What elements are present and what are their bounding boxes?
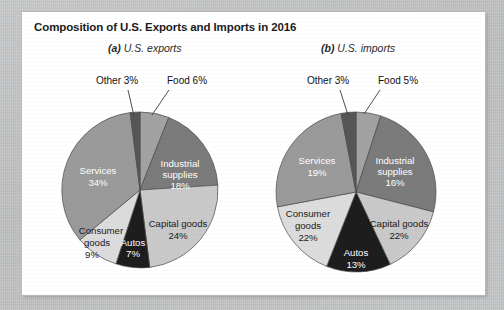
figure-panel: Composition of U.S. Exports and Imports … [22,12,485,295]
chart-a-subtitle: (a) U.S. exports [108,42,182,54]
pie-chart-a-svg: Other 3% Food 6% Industrial supplies 18%… [28,54,253,292]
label-services-value: 19% [307,167,327,178]
label-other: Other 3% [307,75,349,86]
label-capital-goods-line1: Capital goods [370,218,429,229]
leader-line-food [152,90,169,115]
label-food: Food 5% [378,75,418,86]
label-industrial-supplies-line2: supplies [377,166,412,177]
chart-a-subtitle-text: U.S. exports [121,42,182,54]
label-industrial-supplies-line2: supplies [162,169,197,180]
label-capital-goods-value: 24% [168,230,188,241]
label-consumer-goods-value: 9% [85,249,99,260]
pie-chart-us-imports: Other 3% Food 5% Industrial supplies 16%… [244,54,469,292]
label-other: Other 3% [96,75,138,86]
leader-line-other [128,90,134,116]
label-capital-goods-line1: Capital goods [149,218,208,229]
label-food: Food 6% [167,75,207,86]
label-consumer-goods-line2: goods [295,220,321,231]
label-industrial-supplies-line1: Industrial [376,155,415,166]
label-capital-goods-value: 22% [389,230,409,241]
leader-line-food [364,90,380,114]
label-autos-line1: Autos [121,237,146,248]
chart-b-subtitle: (b) U.S. imports [321,42,395,54]
label-autos-line1: Autos [344,247,369,258]
chart-b-tag: (b) [321,42,334,54]
label-consumer-goods-line1: Consumer [286,208,331,219]
label-industrial-supplies-line1: Industrial [161,158,200,169]
figure-title: Composition of U.S. Exports and Imports … [34,21,296,33]
label-services-line1: Services [80,165,117,176]
label-consumer-goods-line1: Consumer [79,225,124,236]
pie-chart-us-exports: Other 3% Food 6% Industrial supplies 18%… [28,54,253,292]
label-industrial-supplies-value: 16% [385,177,405,188]
label-services-value: 34% [88,177,108,188]
pie-chart-b-svg: Other 3% Food 5% Industrial supplies 16%… [244,54,469,292]
label-autos-value: 13% [346,259,366,270]
label-autos-value: 7% [126,248,140,259]
label-services-line1: Services [299,155,336,166]
chart-a-tag: (a) [108,42,121,54]
label-industrial-supplies-value: 18% [170,180,190,191]
label-consumer-goods-line2: goods [84,237,110,248]
leader-line-other [340,90,348,115]
label-consumer-goods-value: 22% [298,232,318,243]
chart-b-subtitle-text: U.S. imports [334,42,395,54]
